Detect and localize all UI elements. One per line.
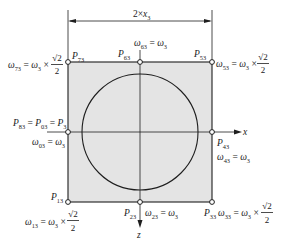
- node-p13: [66, 200, 71, 205]
- point-label-p53: P53: [193, 49, 206, 61]
- fraction-numerator: √2: [258, 52, 267, 62]
- z-axis-label: z: [136, 230, 141, 240]
- node-p73: [66, 60, 71, 65]
- node-p33: [210, 200, 215, 205]
- node-p53: [210, 60, 215, 65]
- arrow-right-icon: [204, 19, 212, 23]
- omega-label-w43: ω43 = ω3: [217, 152, 250, 164]
- omega-label-w23: ω23 = ω3: [145, 208, 178, 220]
- fraction-numerator: √2: [68, 209, 77, 219]
- fraction-denominator: 2: [71, 223, 76, 233]
- point-label-p63: P63: [117, 49, 130, 61]
- omega-label-w53: ω53 = ω3 × √2 2: [216, 52, 269, 75]
- point-label-p73: P73: [71, 51, 84, 63]
- omega-label-w73: ω73 = ω3 × √2 2: [8, 53, 63, 76]
- point-label-p83-p03-p3: P83 = P03 = P3: [12, 118, 66, 130]
- x-axis-label: x: [242, 127, 248, 137]
- fraction-numerator: √2: [262, 201, 271, 211]
- svg-text:ω73 = ω3 ×: ω73 = ω3 ×: [8, 60, 49, 72]
- node-p43: [210, 130, 215, 135]
- node-p63: [138, 60, 143, 65]
- node-p83: [66, 130, 71, 135]
- fraction-numerator: √2: [52, 53, 61, 63]
- omega-label-w13: ω13 = ω3 × √2 2: [25, 209, 79, 233]
- point-label-p43: P43: [216, 138, 229, 150]
- dimension-label: 2×x3: [133, 9, 150, 21]
- x-axis-arrow-icon: [234, 130, 242, 135]
- omega-label-w33: ω33 = ω3 × √2 2: [218, 201, 273, 225]
- fraction-denominator: 2: [265, 215, 270, 225]
- omega-label-w63: ω63 = ω3: [134, 38, 167, 50]
- arrow-left-icon: [68, 19, 76, 23]
- omega-label-w03: ω03 = ω3: [32, 137, 65, 149]
- point-label-p13: P13: [50, 192, 63, 204]
- point-label-p33: P33: [203, 208, 216, 220]
- fraction-denominator: 2: [261, 65, 266, 75]
- node-p23: [138, 200, 143, 205]
- svg-text:ω13 = ω3 ×: ω13 = ω3 ×: [25, 217, 66, 229]
- point-label-p23: P23: [123, 208, 136, 220]
- svg-text:ω33 = ω3 ×: ω33 = ω3 ×: [218, 208, 259, 220]
- svg-text:ω53 = ω3 ×: ω53 = ω3 ×: [216, 59, 257, 71]
- z-axis-arrow-icon: [138, 220, 143, 228]
- square-circle-diagram: 2×x3 x z P73 P63 P53 P43 P33 P23 P13: [0, 0, 282, 241]
- fraction-denominator: 2: [55, 66, 60, 76]
